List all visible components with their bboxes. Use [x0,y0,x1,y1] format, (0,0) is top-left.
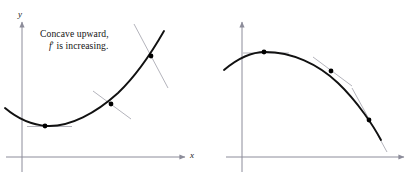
panel-concave-upward: y x Concave upward, f′ is increasing. [0,0,210,179]
caption-line-2: f′ is increasing. [40,40,109,52]
marked-points-left [43,54,154,129]
panel-concave-downward: y x Concave downward, f′ is decreasing. [209,0,419,179]
marked-points-right [262,50,372,123]
marked-point [43,124,48,129]
concave-upward-plot [0,0,210,179]
curve-concave-downward [224,52,381,140]
marked-point [329,69,334,74]
tangent-lines-right [243,53,387,152]
caption-line-2-rest: is increasing. [54,40,109,51]
marked-point [367,118,372,123]
marked-point [109,102,114,107]
concave-downward-plot [209,0,419,179]
marked-point [149,54,154,59]
concavity-figure: y x Concave upward, f′ is increasing. [0,0,419,179]
x-axis-label-left: x [190,150,194,160]
y-axis-label-left: y [18,9,22,19]
caption-line-1: Concave upward, [40,28,109,40]
marked-point [262,50,267,55]
caption-concave-upward: Concave upward, f′ is increasing. [40,28,109,53]
